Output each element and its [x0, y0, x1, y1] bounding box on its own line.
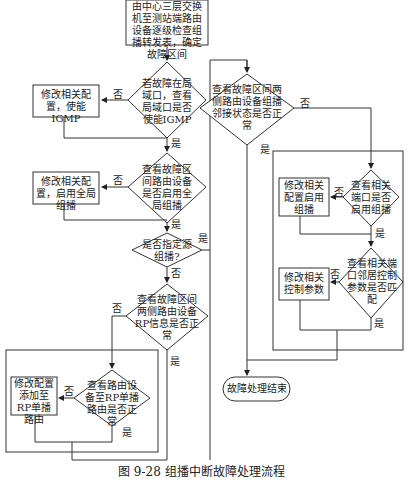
label-no-route: 否 — [64, 386, 74, 398]
process-enable-igmp: 修改相关配置，使能IGMP — [35, 89, 97, 125]
label-no-global: 否 — [113, 175, 123, 187]
label-yes-rp: 是 — [170, 356, 180, 368]
label-yes-route: 是 — [122, 427, 132, 439]
label-no-neighbor: 否 — [300, 98, 310, 110]
label-yes-port: 是 — [375, 228, 385, 240]
decision-rp-info: 查看故障区间两侧路由设备RP信息是否正常 — [134, 294, 200, 342]
label-no-port: 否 — [334, 187, 344, 199]
process-enable-global-multicast: 修改相关配置，启用全局组播 — [35, 176, 97, 212]
label-yes-igmp: 是 — [171, 138, 181, 150]
label-yes-global: 是 — [171, 219, 181, 231]
start-process-box: 由中心三层交换机至测站端路由设备逐级检查组播转发表，确定故障区间 — [128, 1, 206, 61]
label-yes-param: 是 — [374, 318, 384, 330]
label-no-igmp: 否 — [113, 89, 123, 101]
label-no-rp: 否 — [112, 303, 122, 315]
process-add-rp-route: 修改配置添加至RP单播路由 — [12, 378, 56, 426]
decision-neighbor-params: 查看相关端口邻居控制参数是否匹配 — [346, 258, 398, 306]
label-yes-ssm: 是 — [198, 233, 208, 245]
decision-igmp-enabled: 若故障在局域口，查看局域口是否使能IGMP — [138, 78, 196, 126]
label-yes-neighbor: 是 — [260, 144, 270, 156]
label-no-ssm: 否 — [171, 268, 181, 280]
process-enable-port-multicast: 修改相关配置启用组播 — [281, 180, 327, 216]
decision-neighbor-state: 查看故障区间两侧路由设备组播邻接状态是否正常 — [212, 84, 282, 132]
figure-caption: 图 9-28 组播中断故障处理流程 — [118, 465, 285, 479]
end-terminator: 故障处理结束 — [223, 383, 290, 395]
process-modify-params: 修改相关控制参数 — [281, 272, 327, 296]
decision-port-multicast: 查看相关端口是否启用组播 — [350, 180, 392, 216]
decision-source-specific: 是否指定源组播? — [142, 239, 192, 263]
decision-global-multicast: 查看故障区间路由设备是否启用全局组播 — [138, 164, 196, 212]
label-no-param: 否 — [330, 269, 340, 281]
decision-rp-unicast-route: 查看路由设备至RP单播路由是否正常 — [84, 380, 140, 428]
